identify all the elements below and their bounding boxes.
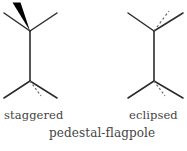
plain-bond-eclipsed-top-left [128, 13, 154, 31]
label-staggered: staggered [4, 108, 63, 122]
plain-bond-staggered-bottom-right [30, 81, 57, 98]
dashed-bond-eclipsed-top [154, 11, 169, 31]
figure-caption: pedestal-flagpole [49, 126, 155, 140]
wedge-bond-staggered-top [13, 3, 31, 32]
structure-staggered [4, 3, 57, 99]
plain-bond-eclipsed-bottom-left [128, 81, 154, 98]
dashed-bond-staggered-bottom [30, 81, 41, 96]
plain-bond-eclipsed-bottom-right [154, 81, 183, 98]
conformation-figure: staggered eclipsed pedestal-flagpole [0, 0, 187, 151]
plain-bond-staggered-top-right [30, 13, 57, 31]
structure-eclipsed [128, 11, 183, 98]
label-eclipsed: eclipsed [129, 108, 178, 122]
plain-bond-staggered-bottom-left [4, 81, 30, 98]
dashed-bond-eclipsed-bottom [154, 81, 165, 96]
plain-bond-eclipsed-top-right [154, 13, 183, 31]
